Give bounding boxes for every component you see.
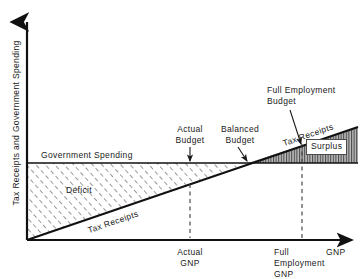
balanced-budget-callout: Balanced Budget (214, 124, 266, 146)
budget-diagram-figure: Tax Receipts and Government Spending GNP… (0, 0, 362, 279)
full-employment-budget-callout: Full Employment Budget (267, 85, 336, 107)
actual-budget-callout: Actual Budget (166, 124, 214, 146)
government-spending-label: Government Spending (41, 150, 133, 161)
balanced-budget-leader (238, 147, 247, 161)
full-employment-gnp-tick-label: Full Employment GNP (274, 247, 325, 279)
actual-gnp-tick-label: Actual GNP (166, 247, 214, 269)
surplus-label: Surplus (306, 139, 347, 155)
deficit-label: Deficit (66, 185, 92, 196)
x-axis-title: GNP (326, 247, 345, 258)
y-axis-title: Tax Receipts and Government Spending (11, 33, 21, 213)
